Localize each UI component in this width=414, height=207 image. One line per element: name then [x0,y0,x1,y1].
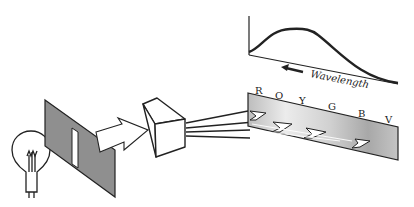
label-blue: B [358,108,365,119]
label-green: G [328,101,336,112]
label-red: R [255,85,263,96]
label-violet: V [384,114,393,125]
prism-dispersion-diagram: R O Y G B V Wavelength [0,0,414,207]
spectrum-screen [248,93,398,160]
light-beam-arrow [96,118,148,152]
light-bulb-icon [12,131,50,198]
intensity-graph: Wavelength [249,16,398,90]
wavelength-label: Wavelength [310,68,370,90]
label-orange: O [275,90,283,101]
prism-icon [143,98,185,157]
dispersed-rays [186,111,254,138]
label-yellow: Y [298,95,306,106]
